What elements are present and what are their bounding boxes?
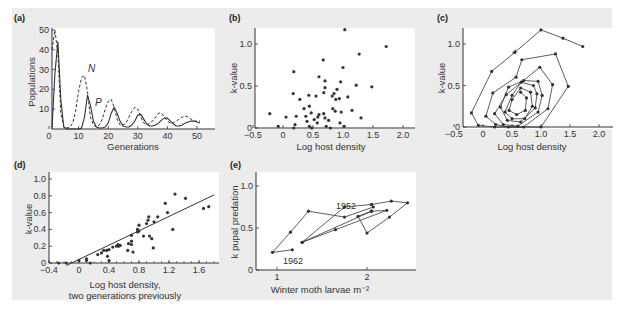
- xlabel-d-line2: two generations previously: [69, 290, 182, 301]
- trajectory-point: [291, 248, 294, 251]
- scatter-point: [322, 91, 325, 94]
- scatter-point: [106, 255, 109, 258]
- trajectory-point: [490, 70, 493, 73]
- x-tick-label: 1.6: [193, 265, 206, 275]
- trajectory-point: [271, 251, 274, 254]
- scatter-point: [292, 92, 295, 95]
- trajectory-point: [537, 110, 540, 113]
- scatter-point: [127, 242, 130, 245]
- y-tick-label: 40: [39, 45, 49, 55]
- scatter-point: [164, 202, 167, 205]
- trajectory-point: [494, 123, 497, 126]
- trajectory-point: [537, 80, 540, 83]
- xlabel-e: Winter moth larvae m⁻²: [271, 284, 369, 295]
- y-tick-label: 1.0: [239, 39, 252, 49]
- plot-area-a: [52, 28, 215, 129]
- trajectory-point: [539, 28, 542, 31]
- x-tick-label: 2: [364, 272, 369, 282]
- scatter-point: [305, 120, 308, 123]
- x-tick-label: 0: [46, 131, 51, 141]
- scatter-point: [146, 219, 149, 222]
- trajectory-point: [499, 105, 502, 108]
- scatter-point: [310, 126, 313, 129]
- x-tick-label: 1.5: [564, 129, 577, 139]
- scatter-point: [131, 250, 134, 253]
- scatter-point: [130, 243, 133, 246]
- scatter-point: [77, 259, 80, 262]
- x-tick-label: 0.8: [133, 265, 146, 275]
- panel-label-a: (a): [14, 13, 25, 23]
- panel-label-b: (b): [229, 13, 241, 23]
- scatter-point: [65, 261, 68, 264]
- annotation-1962: 1962: [283, 256, 303, 266]
- x-tick-label: 40: [162, 131, 172, 141]
- trajectory-point: [516, 125, 519, 128]
- trajectory-point: [365, 231, 368, 234]
- scatter-point: [339, 80, 342, 83]
- scatter-point: [343, 28, 346, 31]
- trajectory-point: [520, 58, 523, 61]
- panel-label-c: (c): [437, 13, 448, 23]
- scatter-point: [171, 228, 174, 231]
- x-tick-label: 50: [192, 131, 202, 141]
- x-tick-label: 0: [280, 130, 285, 140]
- scatter-point: [317, 113, 320, 116]
- panel-label-d: (d): [14, 160, 26, 170]
- y-tick-label: 30: [39, 65, 49, 75]
- x-tick-label: 0: [480, 129, 485, 139]
- scatter-point: [359, 116, 362, 119]
- scatter-point: [327, 119, 330, 122]
- scatter-point: [317, 75, 320, 78]
- x-tick-label: 20: [103, 131, 113, 141]
- scatter-point: [323, 79, 326, 82]
- trajectory-point: [524, 109, 527, 112]
- figure-canvas: (a) (b) (c) (d) (e) 01020304050102030405…: [0, 0, 636, 319]
- scatter-point: [355, 84, 358, 87]
- plot-area-e: [256, 172, 416, 270]
- scatter-point: [331, 107, 334, 110]
- xlabel-c: Log host density: [497, 141, 566, 152]
- scatter-point: [150, 237, 153, 240]
- trajectory-point: [334, 228, 337, 231]
- scatter-point: [332, 92, 335, 95]
- ylabel-a: Populations: [26, 57, 37, 107]
- x-tick-label: 0: [76, 265, 81, 275]
- scatter-point: [137, 224, 140, 227]
- scatter-point: [152, 246, 155, 249]
- x-tick-label: 1.5: [367, 130, 380, 140]
- scatter-point: [323, 86, 326, 89]
- ylabel-e: k pupal predation: [229, 186, 240, 259]
- scatter-point: [130, 240, 133, 243]
- scatter-point: [304, 115, 307, 118]
- scatter-point: [322, 112, 325, 115]
- plot-area-c: [463, 28, 613, 129]
- ylabel-b: k-value: [228, 63, 239, 94]
- x-tick-label: 0.4: [103, 265, 116, 275]
- scatter-point: [284, 115, 287, 118]
- scatter-point: [338, 121, 341, 124]
- scatter-point: [166, 211, 169, 214]
- scatter-point: [385, 45, 388, 48]
- trajectory-point: [484, 115, 487, 118]
- xlabel-b: Log host density: [296, 141, 365, 152]
- scatter-point: [314, 94, 317, 97]
- trajectory-point: [385, 209, 388, 212]
- trajectory-point: [523, 117, 526, 120]
- trajectory-point: [534, 106, 537, 109]
- trajectory-point: [390, 200, 393, 203]
- y-tick-label: 0: [248, 265, 253, 275]
- scatter-point: [292, 70, 295, 73]
- scatter-point: [173, 193, 176, 196]
- trajectory-point: [519, 120, 522, 123]
- y-tick-label: 0.5: [447, 81, 460, 91]
- trajectory-point: [510, 98, 513, 101]
- y-tick-label: 1.0: [33, 174, 46, 184]
- trajectory-point: [532, 84, 535, 87]
- annotation-P: P: [95, 97, 102, 108]
- y-tick-label: 0.2: [33, 241, 46, 251]
- scatter-point: [329, 126, 332, 129]
- scatter-point: [325, 125, 328, 128]
- scatter-point: [370, 85, 373, 88]
- scatter-point: [308, 105, 311, 108]
- scatter-point: [156, 215, 159, 218]
